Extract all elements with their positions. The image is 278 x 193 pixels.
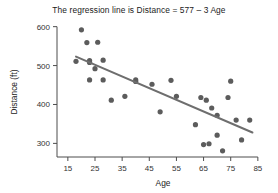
data-point <box>234 117 239 122</box>
x-tick-label: 55 <box>172 164 181 173</box>
data-point <box>92 66 97 71</box>
data-point <box>149 82 154 87</box>
data-point <box>206 141 211 146</box>
data-point <box>84 40 89 45</box>
x-tick-label: 45 <box>145 164 154 173</box>
x-tick-label: 75 <box>226 164 235 173</box>
data-point <box>73 59 78 64</box>
y-tick-label: 400 <box>37 100 51 109</box>
data-point <box>122 94 127 99</box>
data-point <box>109 98 114 103</box>
data-points <box>73 27 252 153</box>
data-point <box>201 142 206 147</box>
data-point <box>79 27 84 32</box>
y-tick-label: 500 <box>37 62 51 71</box>
chart-plot-area: 300400500600 1525354555657585 Distance (… <box>0 0 278 193</box>
data-point <box>95 40 100 45</box>
data-point <box>204 98 209 103</box>
data-point <box>247 117 252 122</box>
data-point <box>198 95 203 100</box>
data-point <box>158 109 163 114</box>
x-tick-label: 15 <box>63 164 72 173</box>
y-tick-label: 600 <box>37 23 51 32</box>
data-point <box>193 122 198 127</box>
scatter-chart: The regression line is Distance = 577 – … <box>0 0 278 193</box>
data-point <box>220 148 225 153</box>
regression-line <box>76 57 252 133</box>
data-point <box>239 137 244 142</box>
x-tick-label: 85 <box>253 164 262 173</box>
y-axis-label: Distance (ft) <box>9 69 19 114</box>
y-axis: 300400500600 <box>37 23 57 157</box>
data-point <box>101 58 106 63</box>
x-tick-label: 35 <box>118 164 127 173</box>
y-tick-label: 300 <box>37 139 51 148</box>
x-tick-label: 65 <box>199 164 208 173</box>
data-point <box>168 78 173 83</box>
data-point <box>101 77 106 82</box>
data-point <box>215 133 220 138</box>
data-point <box>225 95 230 100</box>
data-point <box>87 77 92 82</box>
x-axis-label: Age <box>156 178 171 188</box>
x-tick-label: 25 <box>91 164 100 173</box>
data-point <box>209 105 214 110</box>
x-axis: 1525354555657585 <box>57 157 263 173</box>
data-point <box>228 79 233 84</box>
